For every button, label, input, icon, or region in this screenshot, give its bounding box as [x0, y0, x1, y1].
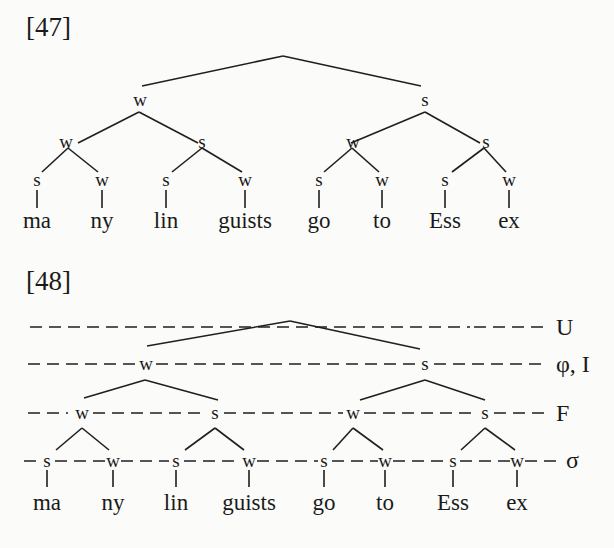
node-48-phi-1: s — [421, 353, 428, 374]
node-48-sigma-5: w — [378, 450, 392, 471]
tier-label-phi-i: φ, I — [556, 351, 590, 377]
node-48-sigma-2: s — [172, 450, 179, 471]
syllable-48-5: to — [376, 490, 394, 515]
node-48-sigma-0: s — [43, 450, 50, 471]
prosodic-hierarchy-48: U φ, I F σ w s w s w s s w s w s w s w m… — [0, 0, 614, 548]
node-48-f-3: s — [481, 402, 488, 423]
tier-label-u: U — [556, 314, 573, 340]
syllable-48-3: guists — [222, 490, 276, 515]
syllable-48-1: ny — [102, 490, 126, 515]
tier-label-sigma: σ — [566, 447, 579, 473]
syllable-48-4: go — [313, 490, 336, 515]
syllable-48-7: ex — [506, 490, 528, 515]
node-48-sigma-7: w — [510, 450, 524, 471]
syllable-48-6: Ess — [437, 490, 469, 515]
tier-label-f: F — [556, 400, 569, 426]
node-48-phi-0: w — [139, 353, 153, 374]
syllable-48-2: lin — [164, 490, 189, 515]
node-48-sigma-6: s — [449, 450, 456, 471]
node-48-sigma-4: s — [320, 450, 327, 471]
node-48-f-2: w — [346, 402, 360, 423]
node-48-sigma-3: w — [242, 450, 256, 471]
node-48-f-1: s — [211, 402, 218, 423]
syllable-48-0: ma — [33, 490, 61, 515]
node-48-sigma-1: w — [106, 450, 120, 471]
node-48-f-0: w — [75, 402, 89, 423]
